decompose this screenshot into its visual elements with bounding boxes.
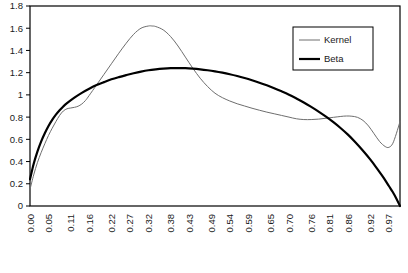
x-axis-tick-label: 0.86: [343, 214, 354, 233]
x-axis: 0.000.050.110.160.220.270.320.380.430.49…: [25, 214, 395, 233]
y-axis-tick-label: 1.4: [10, 45, 23, 56]
y-axis-tick-label: 0.2: [10, 178, 23, 189]
x-axis-tick-label: 0.16: [84, 214, 95, 233]
x-axis-tick-label: 0.22: [106, 214, 117, 233]
y-axis-tick-label: 0: [18, 200, 23, 211]
x-axis-tick-label: 0.70: [284, 214, 295, 233]
x-axis-tick-label: 0.92: [365, 214, 376, 233]
x-axis-tick-label: 0.81: [324, 214, 335, 233]
x-axis-tick-label: 0.05: [43, 214, 54, 233]
x-axis-tick-label: 0.11: [65, 214, 76, 232]
legend-label-kernel: Kernel: [324, 34, 351, 45]
y-axis-tick-label: 1.6: [10, 23, 23, 34]
x-axis-tick-label: 0.59: [243, 214, 254, 233]
x-axis-tick-label: 0.43: [184, 214, 195, 233]
x-axis-tick-label: 0.97: [383, 214, 394, 233]
line-chart: 1.81.61.41.210.80.60.40.20 0.000.050.110…: [0, 0, 408, 273]
y-axis-tick-label: 1.2: [10, 67, 23, 78]
x-axis-tick-label: 0.76: [306, 214, 317, 233]
x-axis-tick-label: 0.27: [124, 214, 135, 233]
x-axis-tick-label: 0.38: [165, 214, 176, 233]
x-axis-tick-label: 0.32: [143, 214, 154, 233]
y-axis: 1.81.61.41.210.80.60.40.20: [10, 0, 30, 211]
y-axis-tick-label: 0.6: [10, 134, 23, 145]
y-axis-tick-label: 0.4: [10, 156, 23, 167]
x-axis-tick-label: 0.65: [265, 214, 276, 233]
chart-legend: KernelBeta: [293, 27, 373, 70]
y-axis-tick-label: 1.8: [10, 0, 23, 11]
x-axis-tick-label: 0.49: [206, 214, 217, 233]
chart-container: 1.81.61.41.210.80.60.40.20 0.000.050.110…: [0, 0, 408, 273]
legend-label-beta: Beta: [324, 53, 344, 64]
y-axis-tick-label: 0.8: [10, 112, 23, 123]
x-axis-tick-label: 0.00: [25, 214, 36, 233]
x-axis-tick-label: 0.54: [224, 214, 235, 233]
y-axis-tick-label: 1: [18, 89, 23, 100]
